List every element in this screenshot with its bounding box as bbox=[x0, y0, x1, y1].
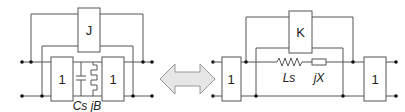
double-arrow-icon bbox=[160, 64, 215, 94]
left-unit-label: 1 bbox=[227, 72, 234, 87]
j-label: J bbox=[86, 23, 93, 38]
ls-label: Ls bbox=[283, 71, 296, 85]
inner-feedback-wire bbox=[256, 48, 343, 96]
inductor-icon bbox=[277, 58, 302, 66]
right-unit-label: 1 bbox=[109, 72, 116, 87]
k-label: K bbox=[296, 25, 305, 40]
caption-cs-jb: Cs jB bbox=[73, 99, 102, 112]
left-unit-label: 1 bbox=[58, 72, 65, 87]
inductor-icon bbox=[91, 62, 97, 96]
right-circuit: K 1 1 Ls jX bbox=[211, 11, 398, 101]
equivalence-diagram: J 1 1 Cs jB bbox=[0, 0, 405, 112]
left-circuit: J 1 1 Cs jB bbox=[20, 8, 154, 112]
capacitor-icon bbox=[76, 62, 86, 96]
jx-label: jX bbox=[312, 71, 326, 85]
right-unit-label: 1 bbox=[371, 72, 378, 87]
reactance-icon bbox=[312, 59, 326, 65]
